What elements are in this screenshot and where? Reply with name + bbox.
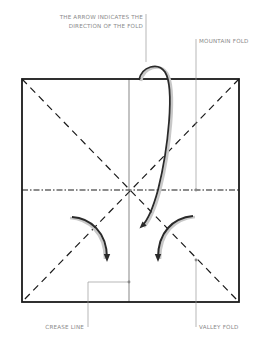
label-crease-line: CREASE LINE bbox=[30, 323, 84, 332]
label-arrow-line-2: DIRECTION OF THE FOLD bbox=[40, 22, 143, 31]
leader-valley-fold-dot bbox=[195, 259, 198, 262]
origami-diagram bbox=[0, 0, 267, 352]
label-arrow-line-1: THE ARROW INDICATES THE bbox=[40, 13, 143, 22]
left-curved-arrow-shadow bbox=[70, 218, 105, 259]
fold-direction-arrow-shadow bbox=[141, 67, 172, 227]
leader-mountain-fold-dot bbox=[195, 189, 198, 192]
leader-crease-line bbox=[88, 282, 129, 327]
label-mountain-fold: MOUNTAIN FOLD bbox=[199, 37, 249, 46]
label-arrow-direction: THE ARROW INDICATES THE DIRECTION OF THE… bbox=[40, 13, 143, 31]
left-curved-arrow bbox=[72, 217, 107, 258]
label-valley-fold: VALLEY FOLD bbox=[199, 323, 239, 332]
fold-direction-arrow bbox=[139, 66, 170, 226]
leader-crease-line-dot bbox=[128, 281, 131, 284]
